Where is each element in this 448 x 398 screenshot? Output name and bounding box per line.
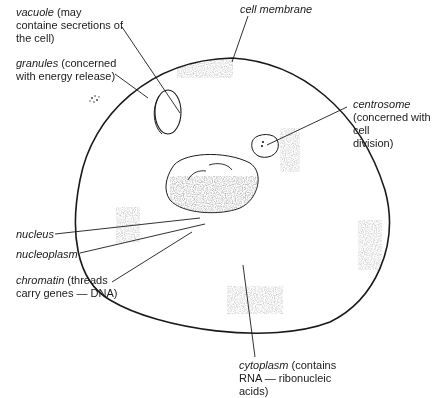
chromatin-desc: (threads: [64, 274, 107, 286]
centrosome-term: centrosome: [353, 98, 410, 110]
centrosome: [252, 135, 279, 158]
vacuole-term: vacuole: [16, 6, 54, 18]
label-cell-membrane: cell membrane: [240, 3, 312, 16]
cytoplasm-desc: (contains: [289, 359, 337, 371]
chromatin-desc-line2: carry genes — DNA): [16, 287, 117, 299]
label-nucleus: nucleus: [16, 228, 54, 241]
vacuole-desc-line3: the cell): [16, 32, 55, 44]
cytoplasm-desc-line3: acids): [239, 385, 268, 397]
granules-cluster: [89, 95, 99, 103]
granules-desc: (concerned: [58, 57, 116, 69]
label-vacuole: vacuole (may containe secretions of the …: [16, 6, 123, 45]
nucleoplasm-term: nucleoplasm: [16, 248, 78, 260]
centrosome-desc-line3: division): [353, 137, 393, 149]
cytoplasm-term: cytoplasm: [239, 359, 289, 371]
vacuole-desc-line2: containe secretions of: [16, 19, 123, 31]
label-granules: granules (concerned with energy release): [16, 57, 116, 83]
granules-desc-line2: with energy release): [16, 70, 115, 82]
nucleus-term: nucleus: [16, 228, 54, 240]
cell-membrane-term: cell membrane: [240, 3, 312, 15]
cytoplasm-desc-line2: RNA — ribonucleic: [239, 372, 331, 384]
granules-term: granules: [16, 57, 58, 69]
chromatin-term: chromatin: [16, 274, 64, 286]
label-nucleoplasm: nucleoplasm: [16, 248, 78, 261]
label-cytoplasm: cytoplasm (contains RNA — ribonucleic ac…: [239, 359, 336, 398]
vacuole-desc: (may: [54, 6, 82, 18]
vacuole: [154, 90, 181, 134]
nucleus: [166, 154, 260, 216]
label-centrosome: centrosome (concerned with cell division…: [353, 98, 448, 150]
centrosome-desc-line2: (concerned with cell: [353, 111, 431, 136]
label-chromatin: chromatin (threads carry genes — DNA): [16, 274, 117, 300]
